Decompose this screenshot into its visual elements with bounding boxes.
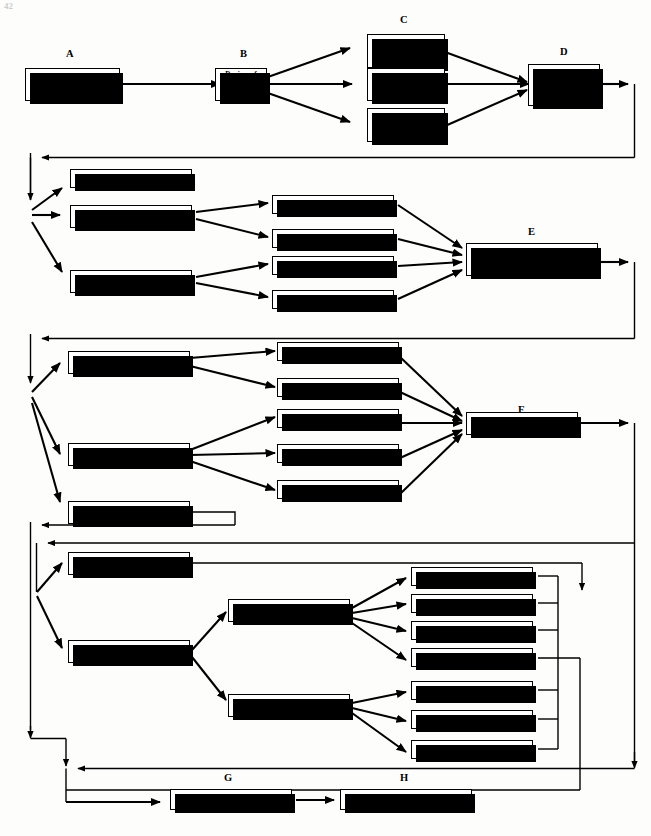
node-systematic[interactable]: Systematic: [411, 594, 533, 613]
node-planning-of-data-analysis[interactable]: Planning of Data Analysis: [340, 789, 472, 810]
node-projective[interactable]: Projective: [277, 480, 399, 499]
node-interviews[interactable]: Interviews: [277, 444, 399, 463]
stage-tag-g: G: [224, 772, 232, 783]
node-quota[interactable]: Quota: [411, 710, 533, 729]
node-surveys[interactable]: Surveys: [272, 195, 394, 214]
page-corner-mark: 42: [4, 1, 13, 11]
stage-tag-a: A: [66, 48, 74, 59]
node-identification-of-variables[interactable]: Identification of Variables: [367, 68, 445, 101]
node-field-experiments[interactable]: Field Experiments: [272, 290, 394, 309]
stage-tag-h: H: [400, 772, 408, 783]
edges-stage3-fan: [32, 363, 60, 502]
node-nonparticipant[interactable]: Nonparticipant: [277, 378, 399, 397]
node-direct-communication[interactable]: Direct Communication: [68, 443, 190, 466]
node-secondary-data[interactable]: Secondary Data: [68, 501, 190, 524]
node-questionnaires[interactable]: Questionnaires: [277, 409, 399, 428]
edges-stage2-fan: [32, 188, 62, 272]
node-selection-of-subjects[interactable]: Selection of Subjects: [466, 412, 578, 435]
node-selection-of-data-collection-technique[interactable]: Selection of Data Collection Technique: [466, 243, 598, 276]
node-stratified[interactable]: Stratified: [411, 621, 533, 640]
node-formulation-of-research-problem[interactable]: Formulation of Research Problem: [25, 68, 120, 101]
node-laboratory-experiments[interactable]: Laboratory Experiments: [272, 256, 394, 275]
flowchart-page: 42: [0, 0, 651, 836]
edges-stage4-fan: [37, 563, 62, 648]
node-probability[interactable]: Probability: [228, 599, 350, 622]
node-descriptive[interactable]: Descriptive: [70, 205, 192, 228]
node-judgmental[interactable]: Judgmental: [411, 681, 533, 700]
node-causal[interactable]: Causal: [70, 270, 192, 293]
node-convenience[interactable]: Convenience: [411, 740, 533, 759]
node-observation[interactable]: Observation: [68, 351, 190, 374]
node-review-of-related-research[interactable]: Review of Related Research: [215, 68, 267, 101]
node-planning-of-data-coding[interactable]: Planning of Data Coding: [170, 789, 292, 810]
stage-tag-b: B: [240, 48, 247, 59]
node-selection-of-research-design[interactable]: Selection of Research Design: [528, 64, 600, 106]
stage-tag-c: C: [400, 14, 408, 25]
node-clarification-of-concepts[interactable]: Clarification of Concepts: [367, 34, 445, 68]
node-cluster[interactable]: Cluster: [411, 648, 533, 667]
stage-tag-e: E: [528, 226, 535, 237]
node-statement-of-hypotheses[interactable]: Statement of Hypotheses: [367, 108, 445, 142]
bottom-loop: [66, 769, 160, 803]
node-nonprobability[interactable]: Nonprobability: [228, 694, 350, 717]
stage-tag-d: D: [560, 46, 568, 57]
stage-tag-f: F: [518, 404, 524, 415]
node-case-studies[interactable]: Case Studies: [272, 229, 394, 248]
node-random[interactable]: Random: [411, 567, 533, 586]
node-participant[interactable]: Participant: [277, 342, 399, 361]
node-samples[interactable]: Samples: [68, 640, 190, 663]
node-exploratory[interactable]: Exploratory: [70, 169, 192, 188]
node-census[interactable]: Census: [68, 552, 190, 575]
